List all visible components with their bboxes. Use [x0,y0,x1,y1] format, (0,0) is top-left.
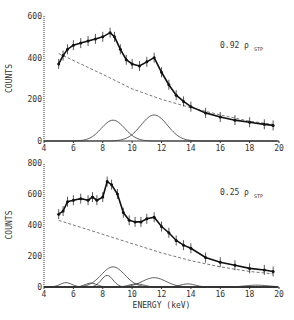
data-point [62,54,65,57]
annotation-sub: STP [254,193,263,199]
background-curve [59,54,273,125]
data-point [62,210,65,213]
x-tick-label: 18 [245,144,255,153]
data-point [113,35,116,38]
x-tick-label: 16 [215,144,225,153]
data-point [66,48,69,51]
y-axis-label: COUNTS [5,64,14,93]
data-point [167,231,170,234]
data-point [72,44,75,47]
data-point [72,199,75,202]
data-point [131,62,134,65]
data-point [263,123,266,126]
y-tick-label: 200 [28,252,43,261]
data-point [87,199,90,202]
peak-curve [44,278,278,287]
x-tick-label: 4 [42,144,47,153]
data-point [57,62,60,65]
y-tick-label: 600 [28,12,43,21]
data-point [109,31,112,34]
data-point [263,268,266,271]
data-point [101,35,104,38]
data-point [219,116,222,119]
data-point [153,56,156,59]
y-tick-label: 400 [28,221,43,230]
x-tick-label: 6 [71,290,76,299]
x-tick-label: 4 [42,290,47,299]
x-tick-label: 14 [186,144,196,153]
data-point [167,83,170,86]
y-tick-label: 600 [28,190,43,199]
peak-curve [44,267,278,287]
annotation: 0.92 ρ [220,41,249,50]
data-point [182,100,185,103]
data-point [122,211,125,214]
data-point [66,200,69,203]
data-point [139,220,142,223]
data-point [233,264,236,267]
data-point [175,239,178,242]
annotation: 0.25 ρ [220,188,249,197]
data-point [204,256,207,259]
x-tick-label: 20 [274,290,284,299]
data-point [160,71,163,74]
y-axis-label: COUNTS [5,210,14,239]
data-point [91,196,94,199]
x-tick-label: 14 [186,290,196,299]
data-point [87,40,90,43]
data-point [272,270,275,273]
x-tick-label: 6 [71,144,76,153]
data-point [57,213,60,216]
x-tick-label: 12 [157,144,167,153]
peak-curve [44,275,278,287]
x-tick-label: 20 [274,144,284,153]
x-tick-label: 10 [127,144,137,153]
data-point [160,225,163,228]
data-point [233,119,236,122]
x-tick-label: 16 [215,290,225,299]
data-point [153,216,156,219]
data-point [248,121,251,124]
data-point [219,261,222,264]
y-tick-label: 400 [28,54,43,63]
x-tick-label: 8 [100,290,105,299]
data-point [116,193,119,196]
data-point [248,267,251,270]
data-point [95,199,98,202]
data-point [189,247,192,250]
data-point [106,180,109,183]
data-point [145,217,148,220]
data-point [128,219,131,222]
data-point [94,37,97,40]
data-point [125,58,128,61]
data-point [79,197,82,200]
y-tick-label: 200 [28,95,43,104]
data-point [79,42,82,45]
x-tick-label: 10 [127,290,137,299]
figure: 4681012141618200200400600COUNTS0.92 ρSTP… [0,0,294,320]
x-tick-label: 18 [245,290,255,299]
x-tick-label: 12 [157,290,167,299]
data-point [272,124,275,127]
peak-curve [44,120,278,141]
data-point [189,105,192,108]
annotation-sub: STP [254,46,263,52]
peak-curve [44,115,278,141]
data-point [138,65,141,68]
data-point [119,48,122,51]
y-tick-label: 0 [37,137,42,146]
y-tick-label: 0 [37,283,42,292]
data-point [134,220,137,223]
data-point [175,94,178,97]
x-axis-label: ENERGY (keV) [133,301,191,310]
y-tick-label: 800 [28,159,43,168]
x-tick-label: 8 [100,144,105,153]
data-point [101,196,104,199]
data-point [182,244,185,247]
data-point [204,111,207,114]
data-point [110,183,113,186]
data-point [145,60,148,63]
